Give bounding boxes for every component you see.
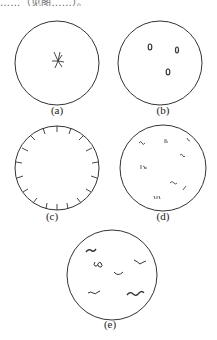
panel-a-label: (a): [51, 104, 63, 116]
oval-icon: [166, 69, 170, 75]
panel-b-circle: [118, 21, 202, 105]
panel-d: [120, 125, 206, 211]
panel-a: [15, 21, 99, 105]
oval-icon: [148, 44, 152, 50]
panel-e-circle: [67, 230, 157, 320]
panel-b: [118, 21, 202, 105]
panel-e-label: (e): [104, 318, 116, 330]
panel-c-label: (c): [46, 210, 58, 222]
panel-e: [67, 230, 157, 320]
star-cluster-icon: [52, 52, 64, 68]
panel-d-label: (d): [157, 210, 170, 222]
panel-b-label: (b): [157, 104, 170, 116]
figure-diagram: [0, 0, 217, 340]
panel-d-circle: [120, 125, 206, 211]
panel-c: [15, 126, 99, 210]
oval-icon: [176, 47, 179, 53]
wavy-filament-icons: [86, 249, 146, 295]
scribble-icons: [139, 138, 190, 199]
panel-c-circle: [15, 126, 99, 210]
radial-ticks: [16, 126, 98, 210]
